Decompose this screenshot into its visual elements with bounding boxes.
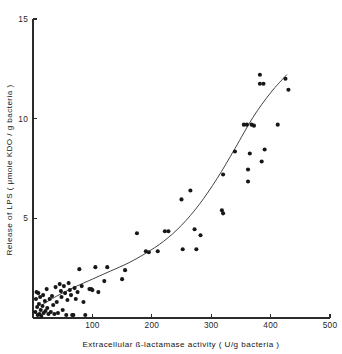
data-point [34,297,38,301]
data-point [252,124,256,128]
plot-background [0,0,342,354]
data-point [50,294,54,298]
data-point [221,172,225,176]
data-point [45,306,49,310]
data-point [63,291,67,295]
y-tick-label: 5 [23,213,28,223]
data-point [49,310,53,314]
data-point [67,281,71,285]
data-point [64,313,68,317]
data-point [166,229,170,233]
data-point [39,308,43,312]
data-point [258,73,262,77]
data-point [260,159,264,163]
data-point [69,293,73,297]
data-point [93,265,97,269]
data-point [194,247,198,251]
y-tick-label: 10 [18,114,28,124]
data-point [36,291,40,295]
data-point [258,82,262,86]
data-point [80,284,84,288]
data-point [261,82,265,86]
data-point [286,88,290,92]
data-point [123,268,127,272]
data-point [198,233,202,237]
x-tick-label: 400 [263,320,278,330]
data-point [245,123,249,127]
data-point [283,77,287,81]
data-point [120,277,124,281]
data-point [37,302,41,306]
data-point [147,250,151,254]
data-point [55,300,59,304]
data-point [59,289,63,293]
data-point [246,179,250,183]
chart-figure: 100200300400500 51015 Extracellular ß-la… [0,0,342,354]
data-point [188,188,192,192]
data-point [56,311,60,315]
data-point [45,287,49,291]
data-point [77,267,81,271]
data-point [263,148,267,152]
x-tick-label: 100 [85,320,100,330]
data-point [96,290,100,294]
data-point [59,295,63,299]
data-point [181,247,185,251]
data-point [61,308,65,312]
x-tick-label: 300 [204,320,219,330]
data-point [58,282,62,286]
data-point [40,304,44,308]
data-point [51,303,55,307]
data-point [71,313,75,317]
y-tick-label: 15 [18,14,28,24]
data-point [135,231,139,235]
data-point [90,288,94,292]
data-point [276,123,280,127]
data-point [163,229,167,233]
data-point [105,265,109,269]
x-tick-label: 500 [323,320,338,330]
data-point [62,284,66,288]
y-axis-title: Release of LPS ( μmole KDO / g bacteria … [5,84,14,255]
data-point [179,197,183,201]
data-point [83,313,87,317]
x-axis-title: Extracellular ß-lactamase activity ( U/g… [82,340,279,349]
data-point [193,227,197,231]
data-point [76,290,80,294]
data-point [43,299,47,303]
data-point [54,285,58,289]
data-point [73,286,77,290]
data-point [221,211,225,215]
data-point [248,152,252,156]
data-point [233,150,237,154]
data-point [81,300,85,304]
data-point [246,167,250,171]
scatter-plot: 100200300400500 51015 Extracellular ß-la… [0,0,342,354]
data-point [102,279,106,283]
data-point [74,297,78,301]
data-point [156,249,160,253]
x-tick-label: 200 [145,320,160,330]
data-point [52,312,56,316]
data-point [41,293,45,297]
data-point [68,288,72,292]
data-point [65,298,69,302]
